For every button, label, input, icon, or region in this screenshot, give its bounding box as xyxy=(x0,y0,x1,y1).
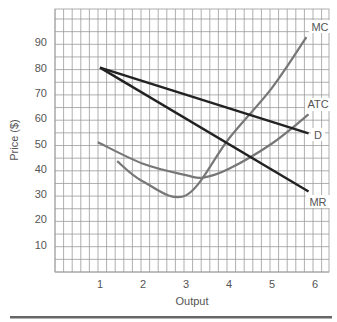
y-tick-label: 50 xyxy=(35,138,47,150)
label-d: D xyxy=(314,129,322,141)
y-tick-label: 80 xyxy=(35,62,47,74)
y-tick-label: 70 xyxy=(35,87,47,99)
y-axis-ticks: 102030405060708090 xyxy=(35,36,47,250)
y-tick-label: 30 xyxy=(35,188,47,200)
bottom-rule xyxy=(10,316,332,319)
x-tick-label: 6 xyxy=(312,278,318,290)
chart-canvas: 102030405060708090 123456 Output Price (… xyxy=(0,0,337,322)
x-axis-ticks: 123456 xyxy=(97,278,318,290)
x-tick-label: 2 xyxy=(140,278,146,290)
label-atc: ATC xyxy=(307,98,328,110)
x-tick-label: 3 xyxy=(183,278,189,290)
grid xyxy=(55,9,329,272)
label-mc: MC xyxy=(311,21,328,33)
y-tick-label: 20 xyxy=(35,213,47,225)
x-tick-label: 4 xyxy=(226,278,232,290)
curve-labels: MC ATC D MR xyxy=(305,20,331,208)
y-tick-label: 90 xyxy=(35,36,47,48)
y-axis-label: Price ($) xyxy=(8,119,20,161)
y-tick-label: 40 xyxy=(35,163,47,175)
curves xyxy=(98,37,309,197)
x-tick-label: 5 xyxy=(269,278,275,290)
x-axis-label: Output xyxy=(175,295,208,307)
y-tick-label: 60 xyxy=(35,112,47,124)
demand-line xyxy=(100,68,309,134)
x-tick-label: 1 xyxy=(97,278,103,290)
label-mr: MR xyxy=(309,196,326,208)
y-tick-label: 10 xyxy=(35,239,47,251)
